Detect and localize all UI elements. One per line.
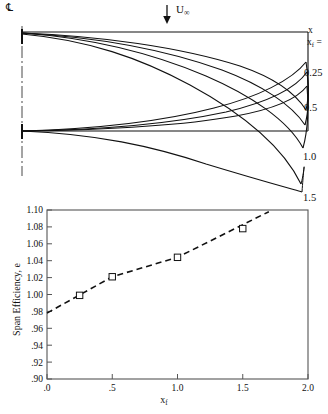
- planform-x-axis-label: x: [308, 26, 313, 36]
- y-ticklabel: 1.02: [26, 273, 43, 283]
- x-tick-group: [47, 374, 308, 379]
- y-ticklabel: 1.04: [26, 256, 43, 266]
- y-tick-group: [47, 210, 52, 379]
- planform-tip-3: [303, 86, 308, 148]
- data-point-marker: [174, 254, 180, 260]
- y-ticklabel: .94: [31, 341, 43, 351]
- chart-svg: .90.92.94.96.981.001.021.041.061.081.10 …: [0, 196, 328, 392]
- planform-curve-te-2: [22, 72, 307, 131]
- planform-curve-te-4: [22, 131, 302, 192]
- freestream-velocity-subscript: ∞: [184, 8, 189, 17]
- data-point-marker: [76, 292, 82, 298]
- y-ticklabel: 1.08: [26, 222, 43, 232]
- data-point-marker: [109, 274, 115, 280]
- x-ticklabel: 2.0: [302, 383, 314, 392]
- x-ticklabel: 1.5: [237, 383, 249, 392]
- data-point-marker: [240, 225, 246, 231]
- y-ticklabel: .92: [31, 358, 43, 368]
- planform-curve-te-3: [22, 86, 307, 131]
- freestream-arrow: [163, 5, 171, 24]
- y-ticklabel-group: .90.92.94.96.981.001.021.041.061.081.10: [26, 205, 43, 384]
- y-ticklabel: 1.10: [26, 205, 43, 215]
- span-efficiency-chart: .90.92.94.96.981.001.021.041.061.081.10 …: [0, 196, 328, 414]
- planform-parameter-legend-header: xf =: [307, 38, 322, 49]
- wing-planform-diagram: ℄ U∞ x xf = 0.25 0.5 1.0 1.5: [0, 0, 328, 196]
- chart-x-axis-label-subscript: f: [165, 399, 167, 407]
- y-ticklabel: .98: [31, 307, 43, 317]
- planform-tip-4: [301, 167, 304, 192]
- chart-x-axis-label: xf: [0, 394, 328, 407]
- plot-frame: [47, 210, 308, 379]
- freestream-velocity-label: U∞: [176, 4, 189, 17]
- x-ticklabel-group: .0.51.01.52.0: [43, 383, 314, 392]
- x-ticklabel: .5: [109, 383, 116, 392]
- y-ticklabel: 1.06: [26, 239, 43, 249]
- freestream-velocity-base: U: [176, 3, 184, 15]
- planform-curve-label-1: 0.5: [304, 103, 317, 114]
- planform-curve-label-2: 1.0: [303, 152, 316, 163]
- x-ticklabel: .0: [43, 383, 50, 392]
- centerline-symbol: ℄: [6, 2, 13, 13]
- planform-svg: [0, 0, 328, 196]
- planform-curve-le-4: [22, 34, 301, 184]
- planform-curve-le-2: [22, 33, 305, 125]
- figure-root: ℄ U∞ x xf = 0.25 0.5 1.0 1.5 .90.92.94.9…: [0, 0, 328, 414]
- y-ticklabel: .96: [31, 324, 43, 334]
- y-ticklabel: 1.00: [26, 290, 43, 300]
- y-ticklabel: .90: [31, 374, 43, 384]
- planform-parameter-equals: =: [314, 37, 322, 47]
- planform-curve-label-0: 0.25: [304, 68, 322, 79]
- x-ticklabel: 1.0: [172, 383, 184, 392]
- chart-y-axis-label: Span Efficiency, e: [11, 240, 22, 360]
